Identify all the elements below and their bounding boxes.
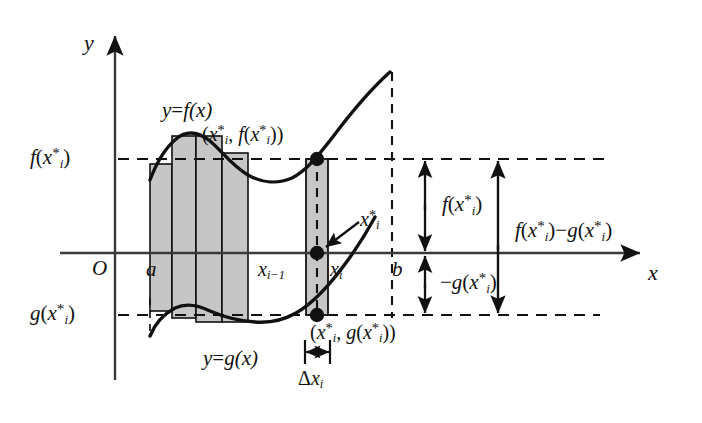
diff-g-open: ( xyxy=(578,218,585,242)
upper-point-close: )) xyxy=(270,123,283,145)
riemann-rect-1 xyxy=(150,164,172,311)
g-value-fn: g xyxy=(30,301,41,325)
y-axis-label: y xyxy=(84,32,94,54)
upper-point-open: ( xyxy=(202,123,209,145)
riemann-rect-3 xyxy=(196,136,222,322)
riemann-rect-4 xyxy=(222,153,248,322)
lower-point-close: )) xyxy=(382,321,395,343)
f-bracket-close: ) xyxy=(475,192,482,216)
figure-canvas: y x O a b y=f(x) y=g(x) f(x*i) g(x*i) (x… xyxy=(0,0,702,423)
f-bracket-var: x xyxy=(455,192,464,216)
diff-g-close: ) xyxy=(605,218,612,242)
curve-g-label-y: y xyxy=(203,346,212,370)
upper-point-inner-star: * xyxy=(259,122,266,138)
diff-minus: − xyxy=(555,218,567,242)
diff-f-var: x xyxy=(528,218,537,242)
x-axis-label: x xyxy=(648,262,658,284)
upper-point-var: x xyxy=(209,123,218,145)
f-value-open: ( xyxy=(36,145,43,169)
neg-g-height-bracket-label: −g(x*i) xyxy=(440,272,497,293)
x-curr-label: xi xyxy=(330,259,342,279)
curve-g-label: y=g(x) xyxy=(203,348,258,369)
x-star-pointer-arrow xyxy=(326,222,359,247)
lower-point-inner-open: ( xyxy=(356,321,363,343)
f-value-close: ) xyxy=(63,145,70,169)
delta-x-label: Δxi xyxy=(298,368,323,388)
upper-point-star: * xyxy=(218,122,225,138)
curve-f-label-arg: (x) xyxy=(189,98,212,122)
measure-delta-x xyxy=(305,340,330,364)
f-value-var: x xyxy=(43,145,52,169)
upper-limit-b-label: b xyxy=(392,259,403,280)
neg-g-minus: − xyxy=(440,270,452,294)
upper-point-comma: , xyxy=(228,123,238,145)
x-prev-var: x xyxy=(258,258,267,280)
neg-g-fn: g xyxy=(452,270,463,294)
f-height-bracket-label: f(x*i) xyxy=(442,194,482,215)
curve-g-label-fn: g xyxy=(224,346,235,370)
delta-x-var: x xyxy=(311,367,320,389)
origin-label: O xyxy=(92,258,107,279)
x-prev-label: xi−1 xyxy=(258,259,285,279)
curve-f-label-eq: = xyxy=(171,98,183,122)
x-curr-sub: i xyxy=(339,268,342,282)
delta-symbol: Δ xyxy=(298,367,311,389)
x-star-sup: * xyxy=(369,207,376,223)
upper-point-inner-var: x xyxy=(250,123,259,145)
curve-f-label: y=f(x) xyxy=(162,100,212,121)
f-value-star: * xyxy=(52,145,60,161)
lower-point-inner-var: x xyxy=(363,321,372,343)
delta-x-sub: i xyxy=(320,377,323,391)
diff-g: g xyxy=(567,218,578,242)
diff-g-star: * xyxy=(594,218,602,234)
neg-g-var: x xyxy=(469,270,478,294)
neg-g-close: ) xyxy=(490,270,497,294)
lower-point-star: * xyxy=(326,320,333,336)
x-prev-sub: i−1 xyxy=(267,268,285,282)
sample-x-star-point xyxy=(310,246,324,260)
g-value-axis-label: g(x*i) xyxy=(30,303,75,324)
diff-g-var: x xyxy=(585,218,594,242)
upper-sample-point xyxy=(310,152,324,166)
lower-point-open: ( xyxy=(310,321,317,343)
difference-bracket-label: f(x*i)−g(x*i) xyxy=(515,220,612,241)
f-bracket-star: * xyxy=(464,192,472,208)
lower-point-var: x xyxy=(317,321,326,343)
diagram-svg xyxy=(0,0,702,423)
x-star-label: x*i xyxy=(360,209,380,229)
x-star-var: x xyxy=(360,208,369,230)
diff-f-star: * xyxy=(537,218,545,234)
f-bracket-open: ( xyxy=(448,192,455,216)
curve-g-label-eq: = xyxy=(212,346,224,370)
g-value-close: ) xyxy=(68,301,75,325)
g-value-open: ( xyxy=(41,301,48,325)
diff-f-open: ( xyxy=(521,218,528,242)
x-curr-var: x xyxy=(330,258,339,280)
lower-limit-a-label: a xyxy=(146,259,157,280)
lower-point-fn: g xyxy=(346,321,356,343)
g-value-var: x xyxy=(48,301,57,325)
curve-f-label-y: y xyxy=(162,98,171,122)
lower-point-label: (x*i, g(x*i)) xyxy=(310,322,396,342)
curve-g-label-arg: (x) xyxy=(235,346,258,370)
riemann-rect-2 xyxy=(172,136,196,318)
f-value-axis-label: f(x*i) xyxy=(30,147,70,168)
x-star-sub: i xyxy=(376,218,379,232)
lower-point-comma: , xyxy=(336,321,346,343)
lower-point-inner-star: * xyxy=(372,320,379,336)
upper-point-label: (x*i, f(x*i)) xyxy=(202,124,283,144)
